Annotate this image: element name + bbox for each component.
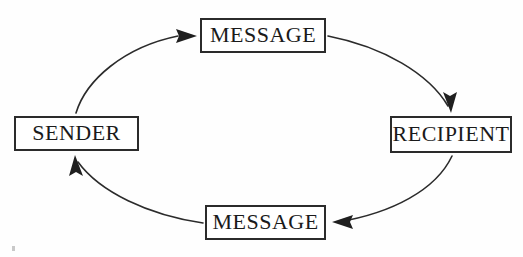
edge-recipient-to-message-bottom-curve bbox=[338, 156, 452, 222]
edge-sender-to-message-top-curve bbox=[76, 36, 178, 113]
node-recipient: RECIPIENT bbox=[390, 116, 512, 153]
edge-message-bottom-to-sender-curve bbox=[78, 162, 203, 223]
node-recipient-label: RECIPIENT bbox=[393, 123, 510, 147]
node-message-bottom-label: MESSAGE bbox=[212, 211, 318, 235]
scan-artifact-speck bbox=[12, 246, 15, 251]
node-message-top-label: MESSAGE bbox=[210, 24, 316, 48]
node-sender: SENDER bbox=[14, 116, 139, 151]
node-sender-label: SENDER bbox=[32, 122, 121, 146]
arrowhead-into-message-top bbox=[176, 29, 197, 43]
node-message-bottom: MESSAGE bbox=[205, 205, 326, 240]
node-message-top: MESSAGE bbox=[200, 18, 326, 53]
edge-message-top-to-recipient-curve bbox=[328, 36, 448, 106]
arrowhead-into-message-bottom bbox=[332, 215, 353, 229]
communication-cycle-diagram: MESSAGE RECIPIENT MESSAGE SENDER bbox=[0, 0, 523, 257]
